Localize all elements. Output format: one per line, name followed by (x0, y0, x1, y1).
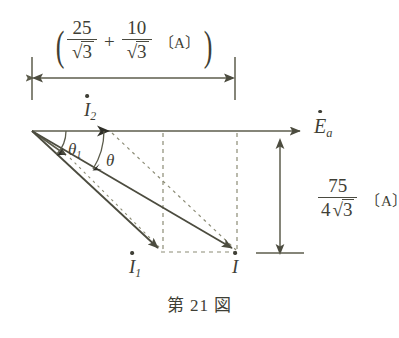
right-dimension-line (256, 138, 304, 255)
unit-ampere-right: 〔A〕 (357, 193, 399, 209)
unit-ampere-top: 〔A〕 (152, 35, 201, 51)
numerator-25: 25 (67, 18, 97, 40)
figure-container: (25√3+10√3〔A〕) 754√3〔A〕 Ea I2 I1 I θ1 θ … (0, 0, 399, 338)
symbol-E: E (314, 115, 326, 137)
subscript-theta-1: 1 (76, 149, 81, 160)
arc-theta (93, 131, 104, 169)
figure-caption: 第 21 図 (0, 297, 399, 314)
vector-I (32, 131, 232, 248)
subscript-2: 2 (90, 110, 96, 123)
numerator-10: 10 (122, 18, 152, 40)
construction-lines (70, 133, 239, 252)
angle-label-theta: θ (106, 152, 114, 169)
fraction-25-over-root3: 25√3 (67, 18, 97, 62)
open-paren: ( (56, 28, 65, 66)
vector-label-I: I (232, 257, 238, 276)
top-dimension-label: (25√3+10√3〔A〕) (53, 18, 215, 66)
subscript-a: a (326, 126, 332, 140)
right-dimension-label: 754√3〔A〕 (318, 176, 399, 220)
angle-label-theta1: θ1 (68, 141, 82, 161)
vector-label-Ea: Ea (314, 116, 332, 139)
denominator-4root3: 4√3 (318, 198, 357, 220)
vector-label-I1: I1 (129, 257, 141, 280)
denominator-root3: √3 (67, 40, 97, 62)
subscript-1: 1 (135, 267, 141, 280)
fraction-10-over-root3: 10√3 (122, 18, 152, 62)
vector-label-I2: I2 (84, 100, 96, 123)
symbol-I-1: I (129, 256, 135, 277)
symbol-I: I (232, 256, 238, 277)
close-paren: ) (204, 28, 213, 66)
fraction-75-over-4root3: 754√3 (318, 176, 357, 220)
symbol-I-2: I (84, 99, 90, 120)
symbol-theta: θ (106, 151, 114, 170)
numerator-75: 75 (318, 176, 357, 198)
vector-I1 (32, 131, 158, 248)
denominator-root3-2: √3 (122, 40, 152, 62)
plus-operator: + (97, 31, 122, 52)
